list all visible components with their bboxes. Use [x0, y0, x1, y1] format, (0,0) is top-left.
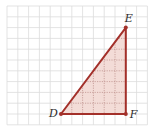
vertex-point-D	[59, 112, 63, 116]
triangle-figure: E D F	[0, 0, 151, 130]
vertex-label-E: E	[125, 13, 133, 24]
vertex-label-F: F	[130, 109, 138, 120]
vertex-point-F	[124, 112, 128, 116]
vertex-label-D: D	[49, 108, 58, 119]
vertex-point-E	[124, 26, 128, 30]
